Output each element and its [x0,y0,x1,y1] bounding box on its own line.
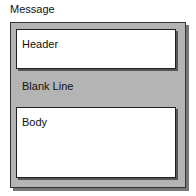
message-container: Header Blank Line Body [10,22,186,188]
header-label: Header [22,38,58,50]
diagram-title: Message [10,3,55,15]
blank-line-label: Blank Line [22,80,73,92]
body-label: Body [22,116,47,128]
header-section: Header [16,29,176,69]
body-section: Body [16,107,176,178]
